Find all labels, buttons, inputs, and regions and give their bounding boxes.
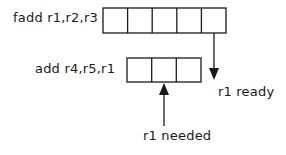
fadd-pipeline <box>103 8 226 33</box>
ready-arrow <box>209 33 219 80</box>
add-pipeline <box>127 58 201 82</box>
arrow-up-icon <box>159 83 169 95</box>
pipeline-diagram <box>0 0 286 155</box>
fadd-pipeline-frame <box>103 8 226 33</box>
arrow-down-icon <box>209 68 219 80</box>
add-pipeline-frame <box>127 58 201 82</box>
needed-arrow <box>159 83 169 126</box>
